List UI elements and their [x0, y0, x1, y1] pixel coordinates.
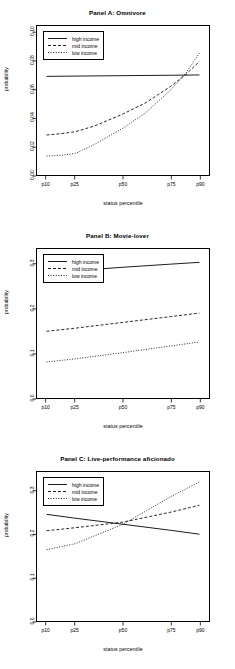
legend: high incomemid incomelow income — [43, 31, 104, 60]
legend-line-dotted-icon — [47, 272, 68, 279]
legend-item: mid income — [47, 265, 99, 272]
legend-label: high income — [68, 36, 99, 42]
legend-label: low income — [68, 50, 97, 56]
x-axis-label: status percentile — [36, 423, 210, 429]
legend-label: low income — [68, 496, 97, 502]
legend-line-dashed-icon — [47, 42, 68, 49]
y-axis-label: probability — [3, 495, 9, 555]
legend-line-solid-icon — [47, 35, 68, 42]
legend-line-dashed-icon — [47, 488, 68, 495]
legend-item: low income — [47, 49, 99, 56]
legend-line-solid-icon — [47, 258, 68, 265]
tick-marks — [0, 446, 235, 669]
legend-line-dotted-icon — [47, 495, 68, 502]
legend-label: mid income — [68, 489, 98, 495]
legend: high incomemid incomelow income — [43, 477, 104, 506]
chart-panel: Panel A: Omnivorep10p25p50p75p900.000.02… — [0, 0, 235, 223]
x-axis-label: status percentile — [36, 200, 210, 206]
axis-layer: p10p25p50p75p900.00.10.20.3 — [0, 446, 235, 669]
legend-item: high income — [47, 481, 99, 488]
legend-label: high income — [68, 482, 99, 488]
legend-item: high income — [47, 35, 99, 42]
tick-marks — [0, 0, 235, 223]
axis-layer: p10p25p50p75p900.00.10.20.3 — [0, 223, 235, 446]
legend-item: low income — [47, 495, 99, 502]
legend-item: mid income — [47, 42, 99, 49]
y-axis-label: probability — [3, 49, 9, 109]
legend-item: high income — [47, 258, 99, 265]
legend-label: high income — [68, 259, 99, 265]
figure-root: Panel A: Omnivorep10p25p50p75p900.000.02… — [0, 0, 235, 669]
legend-label: mid income — [68, 43, 98, 49]
y-axis-label: probability — [3, 272, 9, 332]
chart-panel: Panel C: Live-performance aficionadop10p… — [0, 446, 235, 669]
tick-marks — [0, 223, 235, 446]
legend-line-dotted-icon — [47, 49, 68, 56]
legend-label: mid income — [68, 266, 98, 272]
legend-line-dashed-icon — [47, 265, 68, 272]
legend-line-solid-icon — [47, 481, 68, 488]
legend-item: mid income — [47, 488, 99, 495]
legend-label: low income — [68, 273, 97, 279]
chart-panel: Panel B: Movie-loverp10p25p50p75p900.00.… — [0, 223, 235, 446]
x-axis-label: status percentile — [36, 646, 210, 652]
legend-item: low income — [47, 272, 99, 279]
axis-layer: p10p25p50p75p900.000.020.040.060.080.10 — [0, 0, 235, 223]
legend: high incomemid incomelow income — [43, 254, 104, 283]
